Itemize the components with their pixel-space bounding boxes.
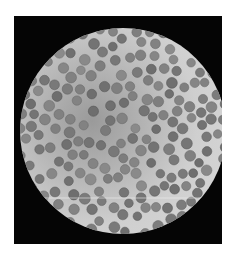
blood-cells	[20, 28, 222, 234]
microscope-frame	[14, 16, 222, 244]
field-of-view	[20, 28, 222, 234]
